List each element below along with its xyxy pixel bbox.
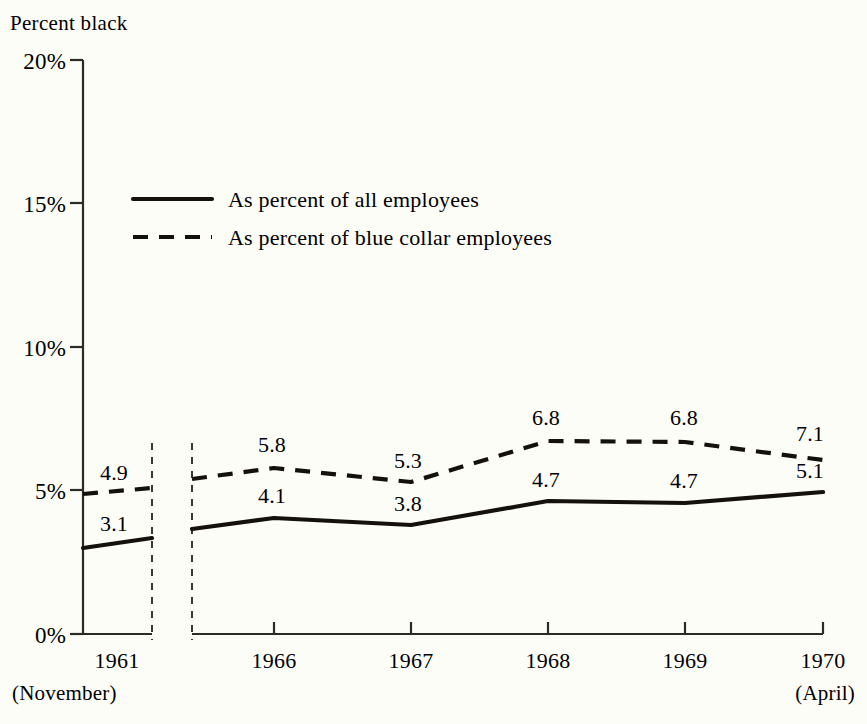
data-label-blue-collar-1961: 4.9 [100,460,128,485]
y-tick-label-10: 10% [23,336,66,361]
x-tick-label-1966: 1966 [252,648,297,673]
legend-label-all-employees: As percent of all employees [228,187,479,212]
y-tick-label-5: 5% [35,479,66,504]
data-label-blue-collar-1970: 7.1 [796,421,824,446]
y-tick-label-0: 0% [35,623,66,648]
series-all-employees-1961-segment [83,538,152,548]
data-label-blue-collar-1968: 6.8 [532,405,560,430]
data-label-blue-collar-1969: 6.8 [670,405,698,430]
data-label-all-employees-1961: 3.1 [100,511,128,536]
data-label-all-employees-1970: 5.1 [796,458,824,483]
x-tick-label-1967: 1967 [389,648,434,673]
x-tick-label-1970: 1970 [801,648,846,673]
data-label-all-employees-1969: 4.7 [670,468,698,493]
series-blue-collar-main [192,441,823,482]
y-axis-title: Percent black [10,11,128,35]
data-label-all-employees-1968: 4.7 [532,467,560,492]
line-chart: Percent black 20% 15% 10% 5% 0% 1961 196… [0,0,867,724]
x-sublabel-april: (April) [795,681,855,705]
data-label-blue-collar-1966: 5.8 [258,432,286,457]
chart-page: Percent black 20% 15% 10% 5% 0% 1961 196… [0,0,867,724]
x-tick-label-1969: 1969 [663,648,708,673]
y-tick-label-20: 20% [23,49,66,74]
x-tick-label-1968: 1968 [526,648,571,673]
legend-label-blue-collar: As percent of blue collar employees [228,225,552,250]
x-tick-label-1961: 1961 [95,648,140,673]
y-tick-label-15: 15% [23,192,66,217]
data-label-blue-collar-1967: 5.3 [394,448,422,473]
data-label-all-employees-1966: 4.1 [258,483,286,508]
series-all-employees-main [192,492,823,529]
series-blue-collar-1961-segment [83,488,152,494]
x-sublabel-november: (November) [12,681,117,705]
data-label-all-employees-1967: 3.8 [394,491,422,516]
